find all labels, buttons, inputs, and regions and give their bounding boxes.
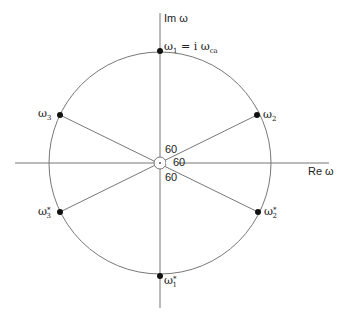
point-w1-label: ω1 = i ωca	[164, 40, 218, 55]
point-w3-label: ω3	[38, 107, 51, 122]
point-w3-dot	[57, 112, 63, 118]
point-w1-dot	[157, 48, 163, 54]
real-axis-label: Re ω	[308, 165, 334, 177]
angle-label-right: 60	[173, 156, 185, 168]
origin-dot	[159, 162, 161, 164]
root-locus-diagram: Im ω Re ω ω1 = i ωca ω2 ω3 ω*1 ω*2 ω*3 6…	[0, 0, 343, 321]
point-w2-label: ω2	[263, 108, 276, 123]
point-w3c-label: ω*3	[38, 205, 51, 220]
angle-label-lower: 60	[165, 171, 177, 183]
angle-label-upper: 60	[165, 143, 177, 155]
point-w2-dot	[254, 112, 260, 118]
point-w1c-dot	[157, 273, 163, 279]
point-w1c-label: ω*1	[164, 274, 177, 289]
point-w2c-label: ω*2	[264, 205, 277, 220]
point-w2c-dot	[255, 209, 261, 215]
point-w3c-dot	[57, 209, 63, 215]
imaginary-axis-label: Im ω	[164, 12, 188, 24]
